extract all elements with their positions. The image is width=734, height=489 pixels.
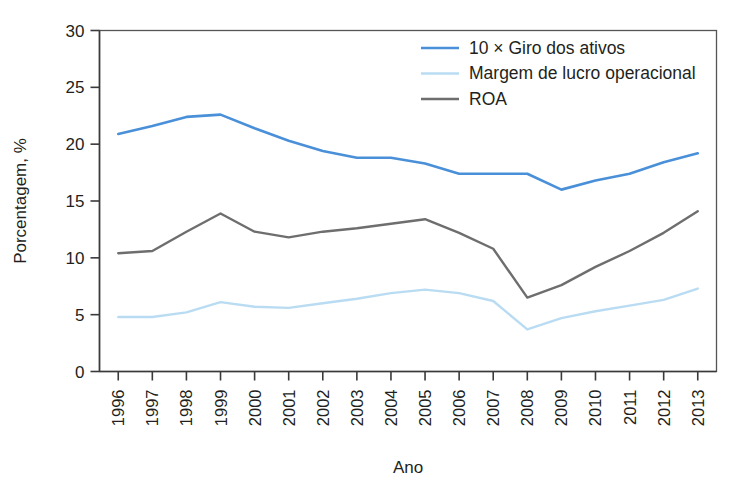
x-axis-tick-label: 2003 bbox=[348, 390, 366, 427]
y-axis-tick-label: 15 bbox=[66, 192, 85, 211]
y-axis-tick-label: 5 bbox=[75, 306, 84, 325]
x-axis-tick-label: 2004 bbox=[382, 390, 400, 427]
x-axis-tick-label: 2013 bbox=[689, 390, 707, 427]
x-axis-tick-label: 2002 bbox=[314, 390, 332, 427]
line-chart: 0510152025301996199719981999200020012002… bbox=[0, 0, 734, 489]
y-axis-tick-label: 10 bbox=[66, 249, 85, 268]
x-axis-tick-label: 2005 bbox=[416, 390, 434, 427]
chart-figure: 0510152025301996199719981999200020012002… bbox=[0, 0, 734, 489]
x-axis-tick-label: 2009 bbox=[552, 390, 570, 427]
x-axis-tick-label: 2010 bbox=[586, 390, 604, 427]
y-axis-title: Porcentagem, % bbox=[11, 138, 30, 264]
x-axis-tick-label: 2011 bbox=[621, 390, 639, 425]
x-axis-tick-label: 1999 bbox=[212, 390, 230, 427]
x-axis-tick-label: 2007 bbox=[484, 390, 502, 427]
legend-label: 10 × Giro dos ativos bbox=[469, 38, 625, 58]
legend-label: ROA bbox=[469, 89, 507, 109]
x-axis-tick-label: 2006 bbox=[450, 390, 468, 427]
legend-label: Margem de lucro operacional bbox=[469, 63, 696, 83]
x-axis-tick-label: 1996 bbox=[109, 390, 127, 427]
x-axis-tick-label: 2012 bbox=[655, 390, 673, 427]
series-line bbox=[118, 115, 698, 190]
x-axis-tick-label: 2000 bbox=[246, 390, 264, 427]
y-axis-tick-label: 30 bbox=[66, 22, 85, 41]
series-line bbox=[118, 289, 698, 330]
y-axis-tick-label: 25 bbox=[66, 78, 85, 97]
x-axis-title: Ano bbox=[393, 458, 423, 477]
x-axis-tick-label: 1997 bbox=[143, 390, 161, 427]
x-axis-tick-label: 2008 bbox=[518, 390, 536, 427]
x-axis-tick-label: 2001 bbox=[280, 390, 298, 427]
x-axis-tick-label: 1998 bbox=[177, 390, 195, 427]
y-axis-tick-label: 20 bbox=[66, 135, 85, 154]
y-axis-tick-label: 0 bbox=[75, 363, 84, 382]
series-line bbox=[118, 211, 698, 297]
